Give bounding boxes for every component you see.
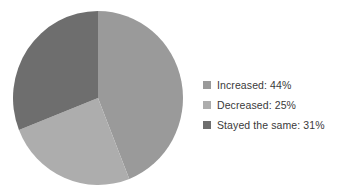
- pie-chart-figure: Increased: 44% Decreased: 25% Stayed the…: [0, 0, 349, 194]
- pie-chart-plot-area: [12, 10, 184, 186]
- legend-label-increased: Increased: 44%: [217, 79, 291, 91]
- legend-label-stayed-the-same: Stayed the same: 31%: [217, 119, 325, 131]
- legend-item-stayed-the-same[interactable]: Stayed the same: 31%: [203, 116, 345, 133]
- legend-swatch-increased: [203, 81, 211, 89]
- pie-svg: [12, 10, 184, 186]
- legend-label-decreased: Decreased: 25%: [217, 99, 296, 111]
- legend-swatch-decreased: [203, 101, 211, 109]
- chart-legend: Increased: 44% Decreased: 25% Stayed the…: [203, 76, 345, 136]
- legend-swatch-stayed-the-same: [203, 121, 211, 129]
- legend-item-decreased[interactable]: Decreased: 25%: [203, 96, 345, 113]
- pie-slice-group: [13, 11, 183, 185]
- legend-item-increased[interactable]: Increased: 44%: [203, 76, 345, 93]
